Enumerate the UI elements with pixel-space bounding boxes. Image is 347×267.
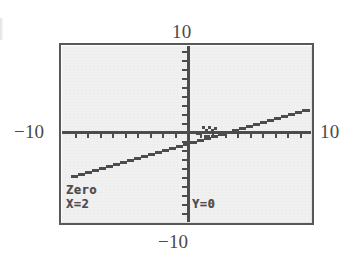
x-axis-line [61, 131, 312, 134]
graph-canvas [61, 45, 312, 223]
y-axis-line [187, 45, 190, 223]
axis-label-x-max: 10 [320, 122, 339, 141]
axis-label-y-min: −10 [158, 232, 188, 251]
axis-label-x-min: −10 [14, 122, 44, 141]
axis-label-y-max: 10 [172, 22, 191, 41]
calculator-screen: Zero X=2 Y=0 [59, 43, 314, 225]
readout-operation-label: Zero [66, 184, 97, 196]
readout-x-value: X=2 [66, 198, 89, 210]
plotted-function-line [71, 109, 310, 178]
zero-cursor-marker [196, 126, 217, 138]
plot-area [61, 45, 312, 223]
scan-artifact [0, 18, 3, 40]
readout-y-value: Y=0 [192, 198, 215, 210]
